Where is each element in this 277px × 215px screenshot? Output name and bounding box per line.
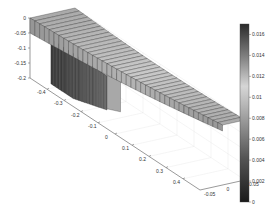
z-tick-label: -0.15 (15, 60, 27, 66)
sheet-side-cell (73, 44, 78, 60)
x-tick-label: -0.1 (88, 123, 97, 129)
plot-canvas: -0.4-0.3-0.2-0.100.10.20.30.4 -0.0500.05… (0, 0, 277, 215)
x-tick-label: -0.4 (37, 89, 46, 95)
colorbar-tick-label: 0.004 (252, 157, 265, 163)
sheet-side-cell (40, 24, 45, 41)
colorbar-tick-label: 0 (252, 199, 255, 205)
block-cell (101, 72, 104, 109)
block-cell (71, 52, 74, 99)
sheet-side-cell (54, 33, 59, 50)
colorbar-gradient (240, 24, 249, 202)
x-tick-label: 0.1 (122, 145, 129, 151)
colorbar-tick-label: 0.006 (252, 136, 265, 142)
block-cell (73, 54, 76, 100)
x-tick-label: 0.3 (156, 168, 163, 174)
block-cell (85, 61, 88, 103)
block-cell (68, 50, 71, 97)
block-cell (82, 59, 85, 102)
y-tick-label: -0.05 (204, 191, 216, 197)
colorbar-ticks: 00.0020.0040.0060.0080.010.0120.0140.016 (249, 31, 265, 205)
grid-line-x (115, 124, 160, 134)
sheet-side-cell (69, 41, 74, 57)
x-tick-label: 0 (105, 134, 108, 140)
colorbar-tick-label: 0.012 (252, 73, 265, 79)
grid-line-x (149, 146, 194, 156)
surface-plot: -0.4-0.3-0.2-0.100.10.20.30.4 -0.0500.05… (0, 0, 277, 215)
sheet-side-cell (59, 35, 64, 51)
grid-line-x (98, 113, 143, 123)
z-tick-label: -0.1 (17, 45, 26, 51)
block-cell (87, 63, 90, 104)
block-cell (79, 57, 82, 101)
block-cell (76, 55, 79, 100)
block-cell (99, 70, 102, 108)
block-cell (90, 65, 93, 106)
sheet-side-cell (88, 53, 93, 68)
sheet-side-cell (83, 50, 88, 65)
grid-line-x (183, 169, 228, 179)
block-cell (65, 48, 68, 95)
z-tick-label: -0.2 (17, 75, 26, 81)
block-cell (104, 74, 107, 110)
block-cell (59, 44, 62, 91)
colorbar (240, 24, 249, 202)
sheet-side-cell (35, 21, 40, 38)
sheet-side-cell (93, 55, 98, 70)
colorbar-tick-label: 0.014 (252, 52, 265, 58)
block-cell (62, 46, 65, 93)
sheet-side-cell (97, 58, 102, 72)
block-cell (57, 43, 60, 90)
grid-line-x (132, 135, 177, 145)
colorbar-tick-label: 0.01 (252, 94, 262, 100)
z-tick-label: -0.05 (15, 30, 27, 36)
z-axis-ticks: 0-0.05-0.1-0.15-0.2 (15, 15, 30, 81)
colorbar-tick-label: 0.016 (252, 31, 265, 37)
colorbar-tick-label: 0.002 (252, 178, 265, 184)
block-cell (93, 67, 96, 107)
sheet-side-cell (64, 38, 69, 54)
y-axis-ticks: -0.0500.05 (204, 181, 259, 197)
x-tick-label: 0.4 (173, 179, 180, 185)
grid-line-x (166, 158, 211, 168)
x-tick-label: -0.2 (71, 112, 80, 118)
x-tick-label: 0.2 (139, 156, 146, 162)
sheet-side-cell (44, 27, 49, 44)
colorbar-tick-label: 0.008 (252, 115, 265, 121)
z-tick-label: 0 (23, 15, 26, 21)
sheet-side-cell (30, 18, 35, 36)
y-axis-line (200, 180, 245, 190)
sheet-side-cell (49, 30, 54, 47)
sheet-side-cell (78, 47, 83, 62)
y-tick-label: 0 (227, 186, 230, 192)
x-tick-label: -0.3 (54, 100, 63, 106)
block-cell (96, 68, 99, 107)
